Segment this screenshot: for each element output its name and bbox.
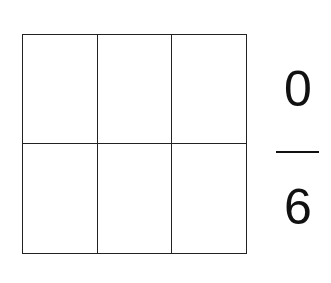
fraction-grid — [22, 34, 247, 254]
grid-cell — [98, 145, 173, 255]
grid-cell — [23, 35, 98, 145]
grid-cell — [23, 145, 98, 255]
grid-cell — [173, 145, 248, 255]
grid-divider-horizontal — [23, 143, 246, 144]
grid-cell — [98, 35, 173, 145]
grid-cell — [173, 35, 248, 145]
fraction-bar — [276, 151, 319, 153]
grid-divider-vertical — [97, 35, 98, 253]
grid-divider-vertical — [171, 35, 172, 253]
fraction-denominator: 6 — [270, 182, 326, 232]
fraction-numerator: 0 — [270, 64, 326, 114]
